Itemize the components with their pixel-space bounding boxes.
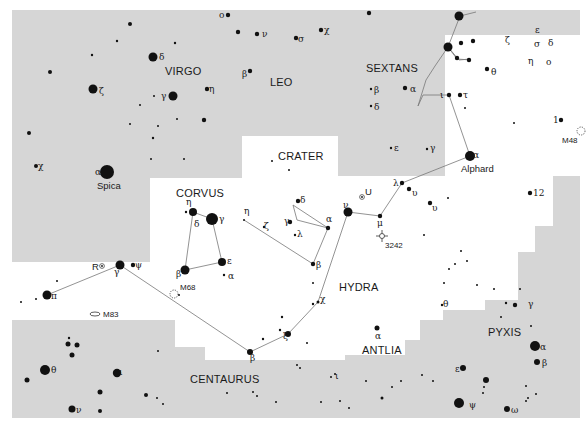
- constellation-label-centaurus: CENTAURUS: [190, 373, 259, 385]
- star-dot: [66, 342, 71, 347]
- star-dot: [27, 131, 31, 135]
- star-label: α: [95, 167, 101, 177]
- star-dot: [144, 393, 148, 397]
- star-dot: [519, 288, 521, 290]
- variable-label-r: R: [92, 261, 99, 272]
- star-dot: [56, 280, 58, 282]
- star-dot: [271, 160, 273, 162]
- star-dot: [464, 107, 466, 109]
- star-label: α: [228, 271, 234, 281]
- star-label: θ: [491, 67, 496, 77]
- star-label: σ: [298, 34, 304, 44]
- star-dot: [370, 88, 372, 90]
- star-dot: [483, 386, 485, 388]
- star-dot: [312, 282, 314, 284]
- star-dot: [236, 30, 240, 34]
- star-label: ζ: [99, 86, 104, 96]
- star-dot: [504, 406, 510, 412]
- star-dot: [262, 338, 264, 340]
- star-dot: [559, 118, 563, 122]
- star-dot: [226, 392, 228, 394]
- star-dot: [326, 226, 330, 230]
- star-label: σ: [534, 39, 540, 49]
- star-dot: [365, 380, 367, 382]
- star-dot: [467, 58, 471, 62]
- star-dot: [153, 95, 155, 97]
- star-dot: [176, 118, 178, 120]
- star-label: ν: [343, 200, 348, 210]
- star-dot: [306, 342, 308, 344]
- star-dot: [243, 219, 245, 221]
- star-dot: [162, 403, 164, 405]
- star-label: ξ: [283, 331, 288, 341]
- star-dot: [157, 350, 159, 352]
- constellation-label-leo: LEO: [270, 76, 293, 88]
- dso-label-m68: M68: [180, 283, 196, 292]
- star-label: χ: [38, 161, 44, 171]
- star-dot: [466, 260, 468, 262]
- star-label: δ: [548, 38, 553, 48]
- star-dot: [98, 390, 103, 395]
- star-dot: [69, 406, 76, 413]
- star-dot: [319, 28, 323, 32]
- star-label: λ: [393, 178, 399, 188]
- star-dot: [48, 70, 52, 74]
- star-dot: [75, 343, 80, 348]
- star-dot: [447, 197, 449, 199]
- star-label: υ: [412, 188, 418, 198]
- star-dot: [152, 137, 154, 139]
- star-dot: [381, 397, 384, 400]
- star-dot: [256, 395, 258, 397]
- star-label: 1: [553, 115, 559, 125]
- constellation-label-pyxis: PYXIS: [488, 326, 521, 338]
- star-dot: [535, 393, 537, 395]
- star-dot: [223, 274, 225, 276]
- star-label: α: [326, 214, 332, 224]
- star-label: β: [250, 353, 255, 363]
- star-dot: [202, 118, 206, 122]
- star-dot: [189, 208, 197, 216]
- star-dot: [68, 337, 70, 339]
- star-dot: [296, 364, 298, 366]
- star-dot: [367, 11, 371, 15]
- star-dot: [534, 359, 540, 365]
- star-label: η: [186, 197, 191, 207]
- variable-label-u: U: [365, 186, 372, 197]
- star-label: γ: [528, 299, 533, 309]
- star-dot: [447, 93, 451, 97]
- star-label: β: [374, 85, 379, 95]
- star-dot: [459, 41, 463, 45]
- star-label: θ: [443, 299, 448, 309]
- star-dot: [426, 148, 428, 150]
- star-label: μ: [377, 218, 383, 228]
- star-label: χ: [324, 25, 330, 35]
- star-label: δ: [300, 195, 305, 205]
- star-dot: [500, 316, 502, 318]
- star-dot: [218, 258, 226, 266]
- star-label: ε: [394, 143, 399, 153]
- dso-label-m48: M48: [562, 136, 578, 145]
- star-label: ψ: [469, 400, 476, 410]
- star-dot: [483, 377, 489, 383]
- star-label: ι: [335, 371, 339, 381]
- star-label: π: [51, 291, 57, 301]
- star-dot: [294, 234, 296, 236]
- star-dot: [89, 85, 98, 94]
- star-label: χ: [320, 294, 326, 304]
- star-label: γ: [430, 143, 435, 153]
- star-dot: [454, 263, 456, 265]
- star-label: δ: [194, 219, 199, 229]
- star-name-spica: Spica: [97, 180, 121, 191]
- star-dot: [311, 262, 315, 266]
- star-label: υ: [432, 203, 438, 213]
- star-dot: [339, 400, 341, 402]
- star-dot: [423, 234, 425, 236]
- constellation-label-hydra: HYDRA: [339, 281, 379, 293]
- star-dot: [391, 386, 393, 388]
- constellation-label-virgo: VIRGO: [165, 65, 202, 77]
- star-dot: [91, 54, 93, 56]
- star-dot: [255, 32, 259, 36]
- star-dot: [25, 378, 30, 383]
- star-dot: [432, 380, 434, 382]
- star-label: ζ: [505, 35, 510, 45]
